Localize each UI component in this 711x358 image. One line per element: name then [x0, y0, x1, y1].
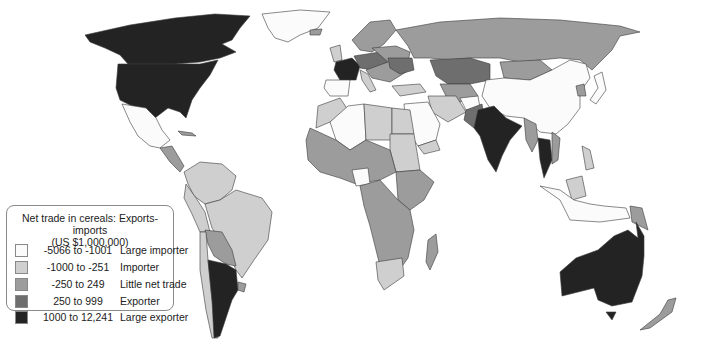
legend-label: Large exporter [120, 311, 188, 323]
legend-range: 1000 to 12,241 [36, 311, 120, 323]
region-libya [364, 104, 392, 140]
region-spain [324, 80, 350, 96]
legend-range: -1000 to -251 [36, 261, 120, 273]
legend-item-large-importer: -5066 to -1001 Large importer [15, 243, 188, 257]
region-thailand [538, 138, 552, 178]
region-japan [590, 72, 606, 104]
swatch-little-net-trade [15, 278, 28, 291]
legend-label: Exporter [120, 295, 160, 307]
legend-label: Large importer [120, 244, 188, 256]
region-canada [85, 14, 250, 64]
region-new-zealand [640, 298, 676, 330]
region-turkey [392, 84, 426, 96]
legend-item-little-net-trade: -250 to 249 Little net trade [15, 277, 187, 291]
legend-label: Importer [120, 261, 159, 273]
swatch-exporter [15, 295, 28, 308]
region-uruguay [238, 282, 246, 292]
region-madagascar [426, 234, 438, 270]
region-central-america [160, 146, 184, 172]
swatch-large-importer [15, 244, 28, 257]
legend-item-large-exporter: 1000 to 12,241 Large exporter [15, 310, 188, 324]
region-south-africa [376, 258, 404, 290]
legend-item-exporter: 250 to 999 Exporter [15, 294, 160, 308]
region-korea [576, 84, 586, 96]
legend-range: -250 to 249 [36, 278, 120, 290]
region-uk [330, 45, 342, 62]
legend-label: Little net trade [120, 278, 187, 290]
region-iceland [310, 29, 322, 35]
legend-title-line1: Net trade in cereals: Exports-imports [7, 212, 173, 236]
legend-range: 250 to 999 [36, 295, 120, 307]
map-legend: Net trade in cereals: Exports-imports (U… [6, 205, 174, 311]
region-greenland [262, 10, 330, 42]
legend-range: -5066 to -1001 [36, 244, 120, 256]
region-kazakhstan [430, 58, 490, 84]
region-cuba [178, 131, 196, 136]
region-australia [560, 222, 644, 306]
swatch-large-exporter [15, 311, 28, 324]
legend-item-importer: -1000 to -251 Importer [15, 260, 159, 274]
region-tasmania [606, 312, 616, 320]
region-philippines [582, 146, 594, 170]
swatch-importer [15, 261, 28, 274]
region-papua-new-guinea [630, 206, 648, 230]
region-vietnam [552, 132, 560, 164]
region-france [334, 58, 360, 80]
